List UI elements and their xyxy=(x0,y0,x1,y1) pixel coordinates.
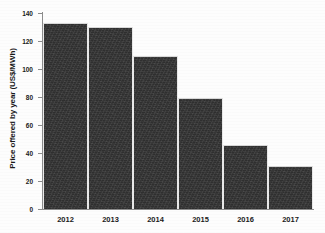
plot-area xyxy=(43,13,313,209)
y-tick-mark xyxy=(38,41,42,42)
y-tick-label: 100 xyxy=(3,66,33,73)
x-tick-label: 2016 xyxy=(223,215,268,224)
bar xyxy=(88,27,133,209)
y-tick-label: 140 xyxy=(3,10,33,17)
x-tick-label: 2014 xyxy=(133,215,178,224)
x-tick-label: 2013 xyxy=(88,215,133,224)
y-tick-mark xyxy=(38,125,42,126)
bar xyxy=(133,56,178,209)
y-axis-title: Price offered by year (US$/MWh) xyxy=(8,21,17,197)
bar xyxy=(223,145,268,209)
y-tick-mark xyxy=(38,69,42,70)
x-tick-label: 2015 xyxy=(178,215,223,224)
bar xyxy=(43,23,88,209)
y-tick-label: 80 xyxy=(3,94,33,101)
y-tick-mark xyxy=(38,13,42,14)
bar xyxy=(268,166,313,209)
y-tick-mark xyxy=(38,181,42,182)
x-tick-label: 2017 xyxy=(268,215,313,224)
y-tick-label: 60 xyxy=(3,122,33,129)
y-tick-label: 120 xyxy=(3,38,33,45)
y-tick-label: 40 xyxy=(3,150,33,157)
y-tick-label: 20 xyxy=(3,178,33,185)
y-tick-mark xyxy=(38,153,42,154)
y-tick-label: 0 xyxy=(3,206,33,213)
y-tick-mark xyxy=(38,209,42,210)
x-tick-label: 2012 xyxy=(43,215,88,224)
bar xyxy=(178,98,223,209)
bar-chart: Price offered by year (US$/MWh) 02040608… xyxy=(0,0,325,233)
y-tick-mark xyxy=(38,97,42,98)
x-axis-line xyxy=(42,209,314,210)
